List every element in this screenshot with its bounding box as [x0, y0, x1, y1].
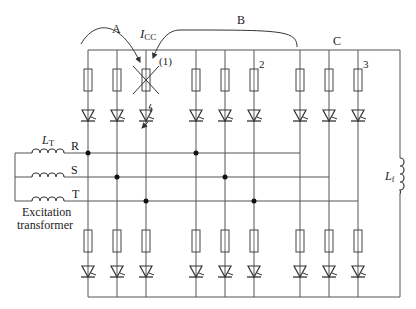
lower-fuses: [84, 230, 362, 252]
label-icc: ICC: [139, 26, 156, 42]
upper-thyristors: [81, 110, 366, 121]
label-transformer-2: transformer: [17, 218, 73, 232]
circuit-svg: A ICC (1) B C 2 3 LT R S T Excitation tr…: [0, 0, 416, 309]
label-fault-1: (1): [159, 55, 172, 68]
label-group-a: A: [112, 22, 121, 36]
label-group-b: B: [237, 13, 245, 27]
label-lf: Lf: [384, 169, 395, 184]
transformer-coils: [32, 149, 64, 201]
label-branch-3: 3: [363, 58, 369, 70]
label-group-c: C: [333, 34, 341, 48]
circuit-diagram: A ICC (1) B C 2 3 LT R S T Excitation tr…: [0, 0, 416, 309]
label-phase-s: S: [71, 163, 78, 177]
label-lt: LT: [41, 133, 55, 148]
upper-fuses: [84, 69, 362, 91]
label-branch-2: 2: [259, 58, 265, 70]
lower-thyristors: [81, 266, 366, 277]
label-transformer-1: Excitation: [22, 205, 71, 219]
label-phase-t: T: [72, 187, 80, 201]
label-phase-r: R: [71, 139, 79, 153]
